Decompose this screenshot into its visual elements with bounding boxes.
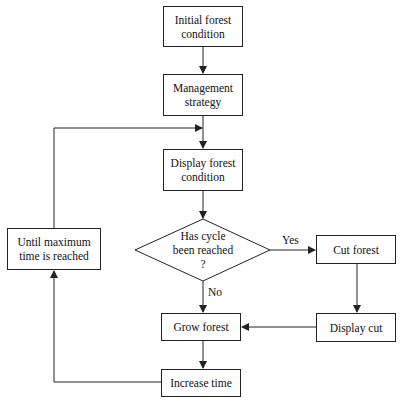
node-label: condition [181, 28, 224, 40]
node-label: Increase time [170, 376, 232, 390]
node-display-forest-condition: Display forest condition [163, 149, 243, 191]
node-cut-forest: Cut forest [316, 235, 396, 264]
edge-label-yes: Yes [282, 234, 299, 246]
decision-label: been reached [173, 244, 233, 256]
node-label: Display forest [171, 157, 236, 169]
decision-label: ? [200, 258, 205, 270]
decision-has-cycle-been-reached: Has cycle been reached ? [153, 229, 253, 271]
node-label: Grow forest [173, 320, 228, 334]
node-label: Cut forest [333, 243, 379, 257]
node-initial-forest-condition: Initial forest condition [163, 6, 243, 47]
flowchart-connectors [0, 0, 404, 404]
node-until-maximum-time: Until maximum time is reached [7, 228, 101, 270]
node-label: Display cut [330, 321, 383, 335]
node-label: Until maximum [17, 236, 90, 248]
node-label: strategy [185, 96, 221, 108]
node-grow-forest: Grow forest [161, 313, 241, 341]
node-increase-time: Increase time [161, 369, 241, 397]
decision-label: Has cycle [180, 230, 225, 242]
node-label: Initial forest [175, 14, 232, 26]
node-management-strategy: Management strategy [163, 74, 243, 116]
node-display-cut: Display cut [316, 313, 396, 342]
edge-label-no: No [208, 286, 222, 298]
node-label: condition [181, 171, 224, 183]
node-label: time is reached [19, 250, 89, 262]
node-label: Management [173, 82, 233, 94]
